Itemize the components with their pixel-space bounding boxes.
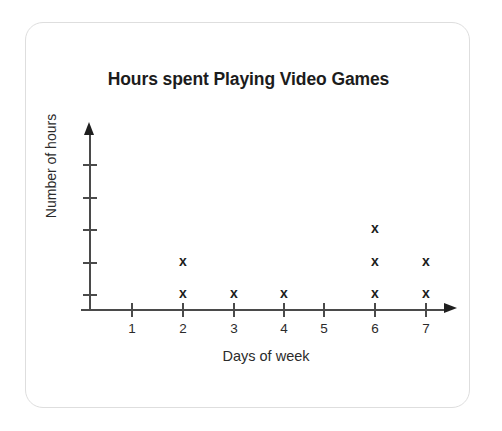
- x-axis-tick-label: 1: [120, 321, 144, 336]
- x-axis-title: Days of week: [86, 348, 446, 364]
- x-axis-tick: [131, 303, 133, 317]
- x-axis-tick-label: 5: [312, 321, 336, 336]
- data-point-marker: x: [173, 251, 193, 271]
- data-point-marker: x: [224, 283, 244, 303]
- y-axis-line: [89, 133, 91, 311]
- y-axis-tick: [83, 229, 97, 231]
- x-axis-tick-label: 2: [171, 321, 195, 336]
- x-axis-tick: [374, 303, 376, 317]
- data-point-marker: x: [416, 251, 436, 271]
- x-axis-tick-label: 6: [363, 321, 387, 336]
- y-axis-tick: [83, 294, 97, 296]
- x-axis-tick-label: 3: [222, 321, 246, 336]
- x-axis-tick: [323, 303, 325, 317]
- data-point-marker: x: [365, 251, 385, 271]
- data-point-marker: x: [173, 283, 193, 303]
- x-axis-tick: [182, 303, 184, 317]
- x-axis-tick: [425, 303, 427, 317]
- y-axis-tick: [83, 164, 97, 166]
- x-axis-line: [81, 309, 447, 311]
- y-axis-tick: [83, 197, 97, 199]
- data-point-marker: x: [416, 283, 436, 303]
- chart-card: Hours spent Playing Video Games 1 2 3 4 …: [25, 22, 470, 408]
- data-point-marker: x: [365, 218, 385, 238]
- y-axis-arrow-icon: [84, 122, 94, 135]
- x-axis-tick-label: 4: [272, 321, 296, 336]
- data-point-marker: x: [365, 283, 385, 303]
- y-axis-title: Number of hours: [43, 91, 59, 241]
- x-axis-tick: [233, 303, 235, 317]
- x-axis-tick-label: 7: [414, 321, 438, 336]
- plot-area: 1 2 3 4 5 6 7 x x x x x x x x x Number o…: [26, 23, 471, 409]
- data-point-marker: x: [274, 283, 294, 303]
- y-axis-tick: [83, 262, 97, 264]
- x-axis-tick: [283, 303, 285, 317]
- x-axis-arrow-icon: [444, 303, 457, 313]
